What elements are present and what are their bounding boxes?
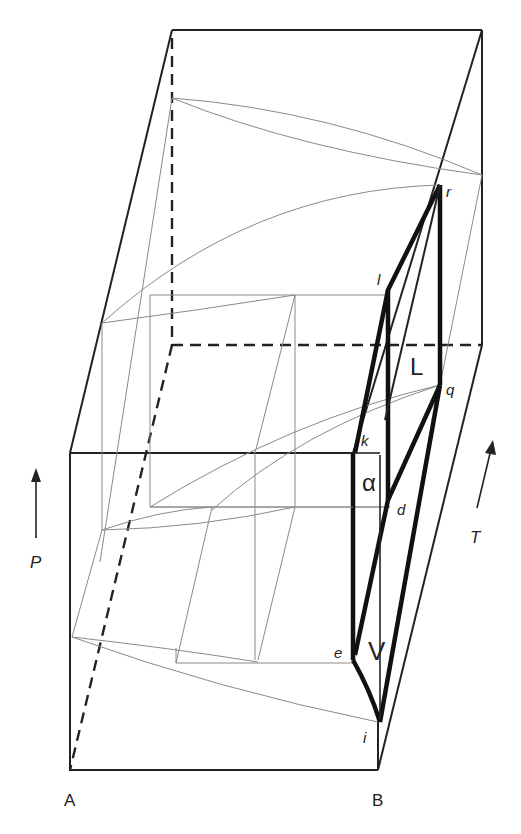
pressure-arrow-head bbox=[31, 468, 41, 482]
temperature-arrow-shaft bbox=[477, 445, 492, 508]
pressure-axis-label: P bbox=[30, 553, 42, 572]
left-top-slant-edge bbox=[70, 30, 172, 453]
phase-label-liquid: L bbox=[410, 353, 423, 380]
point-label-l: l bbox=[377, 271, 381, 288]
pressure-arrow bbox=[31, 468, 41, 538]
phase-label-vapor: V bbox=[368, 636, 386, 666]
component-a-label: A bbox=[64, 791, 76, 810]
front-face-left-bottom bbox=[70, 453, 353, 770]
point-label-e: e bbox=[334, 644, 342, 661]
r-inner-line bbox=[385, 185, 440, 420]
point-label-q: q bbox=[446, 381, 455, 398]
e-i-curve bbox=[353, 660, 380, 722]
temperature-arrow bbox=[477, 440, 496, 508]
point-label-i: i bbox=[363, 729, 367, 746]
phase-label-alpha: α bbox=[362, 469, 376, 496]
hidden-bottom-left-slant bbox=[70, 345, 172, 770]
point-label-r: r bbox=[446, 183, 452, 200]
temperature-arrow-head bbox=[485, 440, 496, 455]
right-top-slant-edge bbox=[353, 30, 482, 453]
q-d-line bbox=[388, 385, 440, 500]
prism-edges bbox=[70, 30, 482, 770]
hidden-edges bbox=[70, 38, 482, 770]
d-e-line bbox=[355, 500, 388, 655]
point-label-d: d bbox=[397, 501, 406, 518]
temperature-axis-label: T bbox=[470, 528, 482, 547]
component-b-label: B bbox=[372, 791, 383, 810]
point-label-k: k bbox=[361, 432, 370, 449]
phase-diagram: P T A B α L V r l q k d e i bbox=[0, 0, 521, 834]
